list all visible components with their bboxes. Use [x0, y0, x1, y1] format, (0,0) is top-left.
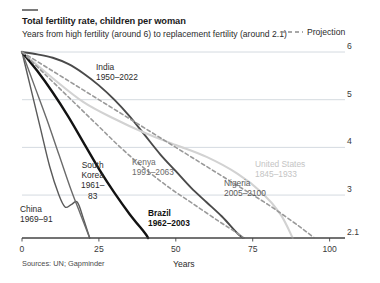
- annotation-line: India: [96, 62, 138, 72]
- x-tick-label: 100: [315, 244, 345, 254]
- annotation-line: South: [81, 160, 104, 170]
- chart-figure: Total fertility rate, children per woman…: [0, 0, 380, 283]
- annotation-line: United States: [255, 159, 305, 169]
- annotation-china: China1969–91: [20, 204, 53, 224]
- annotation-line: China: [20, 204, 53, 214]
- annotation-brazil: Brazil1962–2003: [148, 208, 190, 228]
- source-note: Sources: UN; Gapminder: [22, 259, 105, 268]
- annotation-line: 83: [81, 191, 104, 201]
- x-tick-label: 50: [161, 244, 191, 254]
- annotation-nigeria: Nigeria2005–2100: [224, 178, 266, 198]
- annotation-line: Kenya: [132, 157, 174, 167]
- y-tick-label: 4: [347, 136, 371, 146]
- y-tick-label: 6: [347, 41, 371, 51]
- annotation-kenya: Kenya1991–2063: [132, 157, 174, 177]
- x-tick-label: 25: [84, 244, 114, 254]
- y-tick-label: 3: [347, 184, 371, 194]
- x-tick-label: 0: [7, 244, 37, 254]
- y-tick-label: 5: [347, 89, 371, 99]
- annotation-line: 2005–2100: [224, 188, 266, 198]
- annotation-line: Brazil: [148, 208, 190, 218]
- annotation-south-korea: SouthKorea1961–83: [81, 160, 104, 201]
- annotation-united-states: United States1845–1933: [255, 159, 305, 179]
- annotation-line: 1962–2003: [148, 218, 190, 228]
- annotation-line: 1950–2022: [96, 72, 138, 82]
- x-tick-label: 75: [238, 244, 268, 254]
- annotation-line: 1991–2063: [132, 167, 174, 177]
- annotation-line: 1961–: [81, 180, 104, 190]
- x-axis-title: Years: [173, 259, 195, 269]
- axis-lines: [22, 238, 345, 242]
- y-tick-label: 2.1: [347, 227, 371, 237]
- annotation-line: 1969–91: [20, 214, 53, 224]
- annotation-line: Nigeria: [224, 178, 266, 188]
- annotation-line: Korea: [81, 170, 104, 180]
- chart-plot-area: [0, 0, 380, 283]
- annotation-india: India1950–2022: [96, 62, 138, 82]
